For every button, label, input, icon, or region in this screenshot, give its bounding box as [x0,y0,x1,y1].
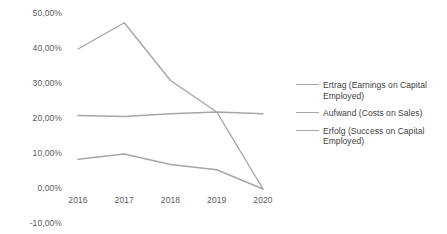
legend-entry-label: Erfolg (Success on Capital Employed) [323,126,444,147]
line-chart: 50,00%40,00%30,00%20,00%10,00%0,00%-10,0… [0,0,447,234]
series-line [78,112,263,117]
legend-line-icon [296,108,319,117]
legend-entry-label: Ertrag (Earnings on Capital Employed) [323,80,444,101]
legend-entry[interactable]: Ertrag (Earnings on Capital Employed) [296,80,444,101]
chart-legend: Ertrag (Earnings on Capital Employed)Auf… [296,80,444,154]
series-lines [78,23,263,189]
series-line [78,154,263,189]
legend-entry[interactable]: Aufwand (Costs on Sales) [296,108,444,119]
legend-line-icon [296,80,319,89]
legend-line-icon [296,126,319,135]
legend-entry[interactable]: Erfolg (Success on Capital Employed) [296,126,444,147]
legend-entry-label: Aufwand (Costs on Sales) [323,108,422,119]
